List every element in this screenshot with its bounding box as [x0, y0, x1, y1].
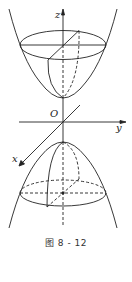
- upper-back-meridian: [63, 31, 79, 99]
- origin-label: O: [50, 108, 58, 119]
- lower-ellipse-back: [20, 180, 106, 193]
- y-axis-label: y: [115, 122, 122, 133]
- z-axis-arrow: [62, 9, 65, 15]
- lower-center-point: [62, 192, 64, 194]
- z-axis-label: z: [54, 9, 61, 20]
- x-axis-label: x: [12, 153, 18, 164]
- lower-front-meridian: [47, 142, 63, 207]
- figure-caption: 图 8 - 12: [0, 236, 132, 249]
